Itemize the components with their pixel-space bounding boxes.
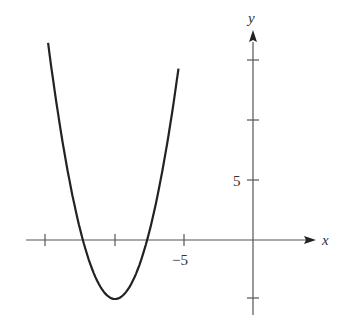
y-axis-label: y [246, 10, 255, 26]
parabola-curve [48, 43, 178, 299]
x-axis-label: x [321, 232, 329, 248]
chart-canvas: x y −5 5 [0, 0, 351, 330]
y-tick-label-5: 5 [233, 173, 241, 189]
y-axis-arrow-icon [249, 30, 257, 42]
x-tick-label--5: −5 [172, 252, 188, 268]
